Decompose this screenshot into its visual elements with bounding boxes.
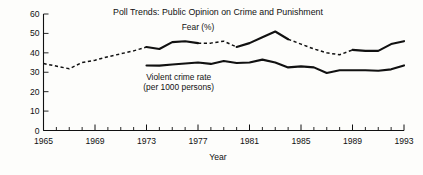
series-fear-solid-0	[147, 41, 199, 49]
y-axis-ticks	[44, 14, 49, 131]
x-axis-tick-labels: 19651969197319771981198519891993	[34, 136, 414, 146]
x-tick-label: 1969	[85, 136, 104, 146]
poll-trends-line-chart: Poll Trends: Public Opinion on Crime and…	[0, 0, 423, 175]
y-axis: 0102030405060	[30, 9, 49, 136]
x-axis: 19651969197319771981198519891993 Year	[34, 125, 414, 163]
x-tick-label: 1985	[291, 136, 310, 146]
x-tick-label: 1993	[394, 136, 413, 146]
crime-label-line1: Violent crime rate	[146, 72, 211, 82]
chart-figure: Poll Trends: Public Opinion on Crime and…	[0, 0, 423, 175]
x-tick-label: 1977	[188, 136, 207, 146]
x-tick-label: 1989	[343, 136, 362, 146]
data-series-layer	[44, 31, 405, 73]
x-tick-label: 1965	[34, 136, 53, 146]
y-tick-label: 20	[30, 87, 40, 97]
series-fear-dashed-1	[198, 41, 237, 47]
y-tick-label: 60	[30, 9, 40, 19]
crime-label-line2: (per 1000 persons)	[143, 82, 214, 92]
series-violent-crime-rate	[147, 60, 405, 73]
series-fear-dashed-2	[288, 39, 352, 55]
y-axis-tick-labels: 0102030405060	[30, 9, 40, 136]
x-axis-title: Year	[209, 152, 227, 162]
y-tick-label: 0	[35, 126, 40, 136]
y-tick-label: 50	[30, 28, 40, 38]
y-tick-label: 10	[30, 106, 40, 116]
x-tick-label: 1981	[240, 136, 259, 146]
chart-title: Poll Trends: Public Opinion on Crime and…	[113, 7, 323, 17]
y-tick-label: 40	[30, 48, 40, 58]
x-tick-label: 1973	[137, 136, 156, 146]
y-tick-label: 30	[30, 67, 40, 77]
series-fear-solid-2	[353, 41, 405, 51]
fear-label: Fear (%)	[182, 22, 215, 32]
annotation-layer: Fear (%)Violent crime rate(per 1000 pers…	[143, 22, 214, 92]
series-fear-dashed-0	[44, 47, 147, 69]
series-fear-solid-1	[237, 31, 289, 47]
x-axis-ticks	[44, 125, 405, 131]
